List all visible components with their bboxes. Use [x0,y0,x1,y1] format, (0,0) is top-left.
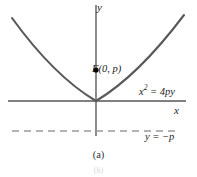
partial-caption-glyph: (b) [0,167,197,175]
parabola-figure: y x F(0, p) x2 = 4py y = −p (a) (b) [0,0,197,177]
figure-caption: (a) [0,150,197,161]
equation-remainder: = 4py [147,86,175,97]
parabola-equation-label: x2 = 4py [139,84,175,97]
directrix-label: y = −p [145,132,174,143]
focus-label: F(0, p) [92,64,121,75]
y-axis-label: y [97,2,102,13]
x-axis-label: x [174,105,179,116]
